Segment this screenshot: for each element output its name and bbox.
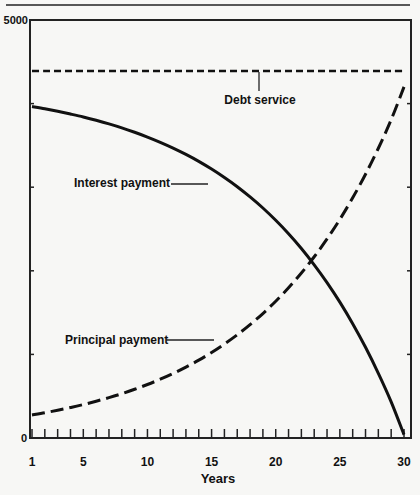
plot-frame	[30, 20, 411, 438]
y-axis-zero-label: 0	[21, 432, 27, 444]
x-tick-label: 20	[269, 455, 283, 469]
x-tick-label: 25	[333, 455, 347, 469]
x-tick-label: 1	[29, 455, 36, 469]
x-tick-label: 5	[80, 455, 87, 469]
x-tick-label: 30	[397, 455, 411, 469]
debt-service-label: Debt service	[224, 93, 296, 107]
x-axis-title: Years	[201, 471, 236, 486]
interest-payment-line	[32, 107, 404, 435]
y-axis-max-label: 5000	[4, 14, 28, 26]
x-tick-label: 10	[141, 455, 155, 469]
y-axis-ticks	[30, 104, 411, 355]
amortization-chart: 5000 0 151015202530 Years Debt service I…	[0, 0, 420, 495]
principal-payment-label: Principal payment	[65, 333, 168, 347]
x-axis-tick-labels: 151015202530	[29, 455, 411, 469]
interest-payment-label: Interest payment	[74, 176, 170, 190]
principal-payment-line	[32, 87, 404, 415]
x-tick-label: 15	[205, 455, 219, 469]
x-axis-ticks	[32, 429, 404, 438]
